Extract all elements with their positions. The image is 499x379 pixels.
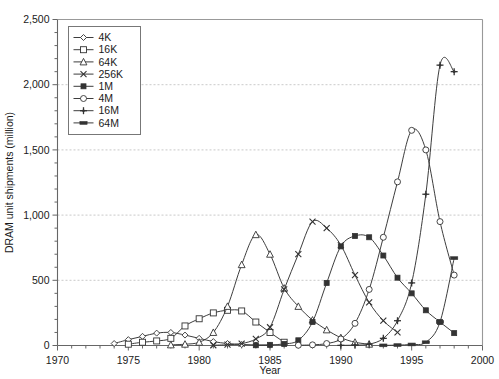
data-point-marker (282, 341, 287, 346)
chart-canvas: 05001,0001,5002,0002,5001970197519801985… (0, 0, 499, 379)
x-tick-label: 2000 (471, 354, 495, 366)
data-point-marker (353, 233, 358, 238)
data-point-marker (423, 308, 428, 313)
data-point-marker (182, 323, 188, 329)
x-tick-label: 1980 (187, 354, 211, 366)
y-tick-label: 500 (32, 274, 50, 286)
data-point-marker (423, 147, 429, 153)
data-point-marker (295, 342, 301, 348)
data-point-marker (140, 339, 146, 345)
data-point-marker (452, 331, 457, 336)
data-point-marker (367, 235, 372, 240)
y-axis-title: DRAM unit shipments (million) (3, 112, 15, 253)
legend-label: 1M (99, 80, 114, 92)
legend-label: 4M (99, 92, 114, 104)
data-point-marker (408, 343, 415, 346)
data-point-marker (338, 244, 343, 249)
data-point-marker (394, 344, 401, 347)
dram-shipments-chart: 05001,0001,5002,0002,5001970197519801985… (0, 0, 499, 379)
x-tick-label: 1990 (329, 354, 353, 366)
data-point-marker (310, 342, 316, 348)
legend-label: 256K (99, 68, 124, 80)
x-tick-label: 1975 (117, 354, 141, 366)
y-tick-label: 0 (44, 339, 50, 351)
data-point-marker (253, 319, 259, 325)
x-tick-label: 1995 (400, 354, 424, 366)
data-point-marker (380, 234, 386, 240)
x-tick-label: 1970 (46, 354, 70, 366)
legend-label: 64K (99, 56, 118, 68)
data-point-marker (310, 320, 315, 325)
data-point-marker (352, 320, 358, 326)
data-point-marker (324, 341, 330, 347)
legend-label: 4K (99, 31, 112, 43)
data-point-marker (80, 122, 87, 125)
data-point-marker (239, 308, 245, 314)
data-point-marker (436, 321, 443, 324)
data-point-marker (81, 47, 87, 53)
legend-label: 16M (99, 104, 119, 116)
data-point-marker (81, 84, 86, 89)
data-point-marker (125, 341, 131, 347)
y-tick-label: 1,000 (23, 209, 49, 221)
data-point-marker (381, 253, 386, 258)
data-point-marker (422, 341, 429, 344)
y-tick-label: 2,000 (23, 78, 49, 90)
data-point-marker (451, 272, 457, 278)
data-point-marker (253, 343, 258, 348)
data-point-marker (437, 219, 443, 225)
data-point-marker (81, 96, 87, 102)
data-point-marker (366, 286, 372, 292)
data-point-marker (409, 127, 415, 133)
legend-label: 64M (99, 117, 119, 129)
y-tick-label: 1,500 (23, 144, 49, 156)
data-point-marker (451, 257, 458, 260)
data-point-marker (210, 310, 216, 316)
data-point-marker (268, 342, 273, 347)
data-point-marker (196, 316, 202, 322)
x-axis-title: Year (259, 364, 281, 376)
data-point-marker (395, 179, 401, 185)
data-point-marker (380, 344, 387, 347)
y-tick-label: 2,500 (23, 13, 49, 25)
data-point-marker (154, 338, 160, 344)
data-point-marker (338, 336, 344, 342)
data-point-marker (324, 280, 329, 285)
data-point-marker (395, 275, 400, 280)
legend-label: 16K (99, 43, 118, 55)
